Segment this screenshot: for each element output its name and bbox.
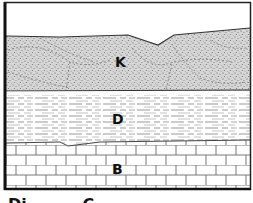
label-b: B (112, 161, 123, 177)
geologic-cross-section: K D B Di C (0, 0, 253, 203)
label-k: K (115, 54, 127, 70)
layer-gap (6, 92, 250, 95)
label-d: D (112, 111, 124, 127)
layer-b (6, 140, 250, 188)
layer-k (6, 28, 250, 91)
caption-partial: Di C (8, 195, 94, 203)
layer-d (6, 94, 250, 146)
